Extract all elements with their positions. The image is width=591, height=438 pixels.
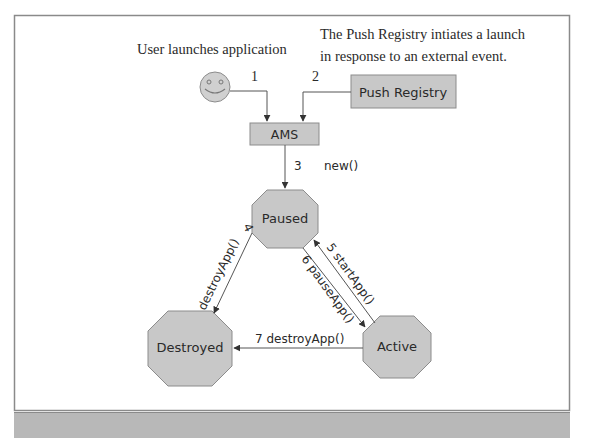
destroyed-state-label: Destroyed [157,340,224,355]
push-registry-label: Push Registry [359,85,448,100]
push-registry-caption-line2: in response to an external event. [320,48,507,64]
active-state-label: Active [377,339,417,354]
paused-state-label: Paused [262,211,308,226]
ams-label: AMS [271,127,298,142]
edge-3-method: new() [324,159,358,173]
edge-7-label: 7 destroyApp() [255,332,344,346]
edge-3-number: 3 [294,159,302,173]
user-launch-caption: User launches application [137,41,288,57]
edge-1-label: 1 [251,69,258,84]
edge-2-label: 2 [312,69,319,84]
bottom-bar [14,412,570,438]
push-registry-caption-line1: The Push Registry intiates a launch [320,26,526,42]
user-smiley-icon [200,72,230,102]
